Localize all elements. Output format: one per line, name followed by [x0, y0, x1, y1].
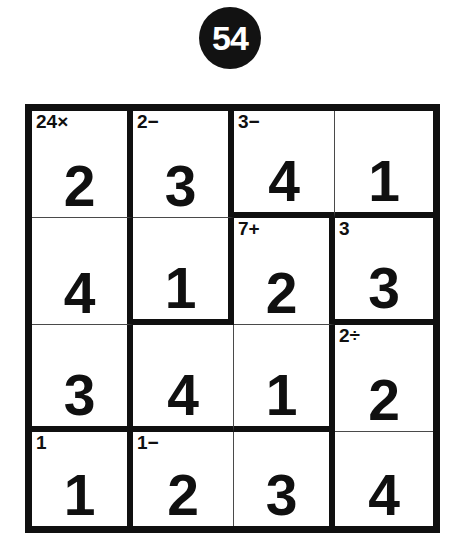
- puzzle-number-label: 54: [212, 21, 248, 55]
- grid-cell-r1c2[interactable]: 2− 3: [133, 111, 234, 218]
- cell-value-r3c4: 2: [335, 370, 433, 430]
- cage-label-r3c4: 2÷: [339, 325, 360, 347]
- grid-cell-r1c3[interactable]: 3− 4: [234, 111, 335, 218]
- grid-cell-r3c1[interactable]: 3: [32, 325, 133, 432]
- grid-cell-r3c4[interactable]: 2÷ 2: [335, 325, 433, 432]
- grid-cell-r3c2[interactable]: 4: [133, 325, 234, 432]
- grid-cell-r4c3[interactable]: 3: [234, 432, 335, 526]
- cell-value-r2c1: 4: [32, 263, 127, 323]
- cell-value-r3c2: 4: [133, 365, 233, 425]
- cage-label-r2c3: 7+: [238, 218, 260, 240]
- cell-value-r2c3: 2: [234, 263, 329, 323]
- kenken-grid: 24× 2 2− 3 3− 4 1 4 1: [25, 104, 440, 533]
- cell-value-r4c1: 1: [32, 465, 127, 525]
- cell-value-r4c4: 4: [335, 465, 433, 525]
- cage-label-r1c2: 2−: [137, 111, 159, 133]
- grid-cell-r2c2[interactable]: 1: [133, 218, 234, 325]
- cell-value-r2c4: 3: [335, 258, 433, 318]
- grid-cell-r2c1[interactable]: 4: [32, 218, 133, 325]
- cage-label-r4c2: 1−: [137, 432, 159, 454]
- grid-cell-r2c4[interactable]: 3 3: [335, 218, 433, 325]
- cell-value-r3c3: 1: [234, 365, 329, 425]
- grid-cell-r2c3[interactable]: 7+ 2: [234, 218, 335, 325]
- cell-value-r4c2: 2: [133, 465, 233, 525]
- grid-cell-r4c4[interactable]: 4: [335, 432, 433, 526]
- grid-cell-r1c1[interactable]: 24× 2: [32, 111, 133, 218]
- cage-label-r4c1: 1: [36, 432, 47, 454]
- cell-value-r1c3: 4: [234, 151, 334, 211]
- cell-value-r2c2: 1: [133, 258, 228, 318]
- cell-value-r3c1: 3: [32, 365, 127, 425]
- cell-value-r4c3: 3: [234, 465, 329, 525]
- cage-label-r1c1: 24×: [36, 111, 68, 133]
- cage-label-r1c3: 3−: [238, 111, 260, 133]
- kenken-puzzle: 54 24× 2 2− 3 3− 4 1 4: [0, 0, 462, 557]
- cage-label-r2c4: 3: [339, 218, 350, 240]
- cell-value-r1c1: 2: [32, 156, 127, 216]
- cell-value-r1c4: 1: [335, 151, 433, 211]
- grid-cell-r4c2[interactable]: 1− 2: [133, 432, 234, 526]
- puzzle-number-badge: 54: [199, 7, 261, 69]
- grid-cell-r1c4[interactable]: 1: [335, 111, 433, 218]
- cell-value-r1c2: 3: [133, 156, 228, 216]
- grid-cell-r3c3[interactable]: 1: [234, 325, 335, 432]
- grid-cell-r4c1[interactable]: 1 1: [32, 432, 133, 526]
